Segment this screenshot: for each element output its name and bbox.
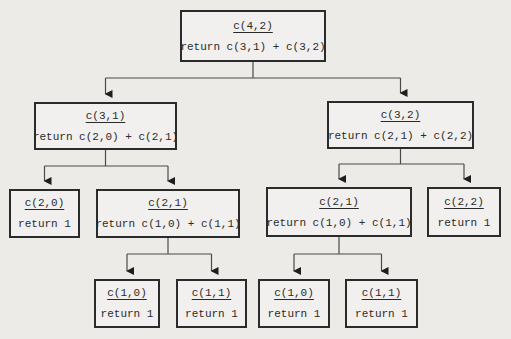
node-body: return 1	[18, 218, 71, 230]
node-c-2-0: c(2,0) return 1	[9, 189, 80, 238]
node-body: return c(2,1) + c(2,2)	[328, 130, 473, 142]
node-c-1-0-left: c(1,0) return 1	[94, 279, 160, 328]
node-body: return c(2,0) + c(2,1)	[33, 131, 178, 143]
node-body: return c(3,1) + c(3,2)	[180, 41, 325, 53]
node-title: c(2,1)	[319, 196, 359, 208]
node-c-3-1: c(3,1) return c(2,0) + c(2,1)	[34, 102, 177, 150]
node-c-1-1-left: c(1,1) return 1	[176, 279, 247, 328]
node-title: c(1,1)	[192, 287, 232, 299]
node-title: c(2,1)	[148, 197, 188, 209]
node-title: c(1,1)	[362, 287, 402, 299]
node-title: c(2,2)	[444, 196, 484, 208]
node-c-2-1-right: c(2,1) return c(1,0) + c(1,1)	[266, 187, 412, 237]
node-title: c(3,2)	[381, 109, 421, 121]
node-c-4-2: c(4,2) return c(3,1) + c(3,2)	[180, 10, 326, 62]
node-c-2-2: c(2,2) return 1	[427, 187, 501, 237]
node-body: return 1	[185, 308, 238, 320]
node-c-3-2: c(3,2) return c(2,1) + c(2,2)	[327, 101, 474, 149]
node-c-1-1-right: c(1,1) return 1	[345, 279, 418, 328]
node-body: return 1	[438, 217, 491, 229]
node-title: c(1,0)	[107, 287, 147, 299]
node-body: return 1	[268, 308, 321, 320]
node-title: c(4,2)	[233, 20, 273, 32]
node-body: return 1	[101, 308, 154, 320]
node-c-2-1-left: c(2,1) return c(1,0) + c(1,1)	[96, 189, 240, 238]
node-title: c(1,0)	[274, 287, 314, 299]
node-body: return 1	[355, 308, 408, 320]
node-body: return c(1,0) + c(1,1)	[95, 218, 240, 230]
node-body: return c(1,0) + c(1,1)	[266, 217, 411, 229]
node-title: c(2,0)	[25, 197, 65, 209]
node-title: c(3,1)	[86, 110, 126, 122]
node-c-1-0-right: c(1,0) return 1	[258, 279, 330, 328]
